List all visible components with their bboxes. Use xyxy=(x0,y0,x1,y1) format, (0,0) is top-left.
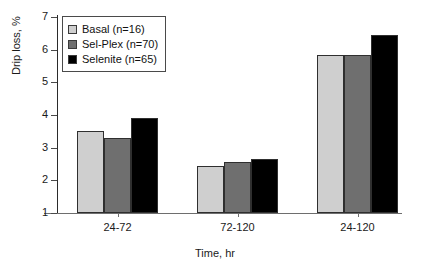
x-axis-line xyxy=(44,213,402,214)
legend-swatch-icon xyxy=(68,55,77,64)
legend-label: Selenite (n=65) xyxy=(82,53,157,65)
bar-basal-24-72 xyxy=(77,131,104,213)
x-group-label-24-72: 24-72 xyxy=(73,221,163,234)
legend-item: Basal (n=16) xyxy=(68,22,158,36)
x-group-label-72-120: 72-120 xyxy=(193,221,283,234)
y-tick-mark xyxy=(51,213,57,214)
x-tick-mark xyxy=(118,213,119,217)
legend-item: Sel-Plex (n=70) xyxy=(68,37,158,51)
legend-item: Selenite (n=65) xyxy=(68,52,158,66)
bar-selenite-24-72 xyxy=(131,118,158,213)
x-tick-mark xyxy=(358,213,359,217)
bar-basal-24-120 xyxy=(317,55,344,213)
y-tick-label: 6 xyxy=(4,44,48,55)
bar-selenite-24-120 xyxy=(371,35,398,213)
y-tick-label: 3 xyxy=(4,142,48,153)
bar-sel-plex-24-120 xyxy=(344,55,371,213)
x-tick-mark xyxy=(238,213,239,217)
legend: Basal (n=16)Sel-Plex (n=70)Selenite (n=6… xyxy=(62,16,166,72)
legend-label: Basal (n=16) xyxy=(82,23,145,35)
y-tick-label: 7 xyxy=(4,11,48,22)
y-tick-label: 1 xyxy=(4,207,48,218)
y-tick-label: 2 xyxy=(4,174,48,185)
bar-basal-72-120 xyxy=(197,166,224,213)
bar-chart: Drip loss, % 7654321 24-7272-12024-120 T… xyxy=(0,0,430,275)
legend-label: Sel-Plex (n=70) xyxy=(82,38,158,50)
legend-swatch-icon xyxy=(68,25,77,34)
x-axis-title: Time, hr xyxy=(0,247,430,259)
legend-swatch-icon xyxy=(68,40,77,49)
y-tick-label: 5 xyxy=(4,76,48,87)
bar-sel-plex-72-120 xyxy=(224,162,251,213)
bar-sel-plex-24-72 xyxy=(104,138,131,213)
bar-selenite-72-120 xyxy=(251,159,278,213)
x-group-label-24-120: 24-120 xyxy=(313,221,403,234)
y-tick-label: 4 xyxy=(4,109,48,120)
